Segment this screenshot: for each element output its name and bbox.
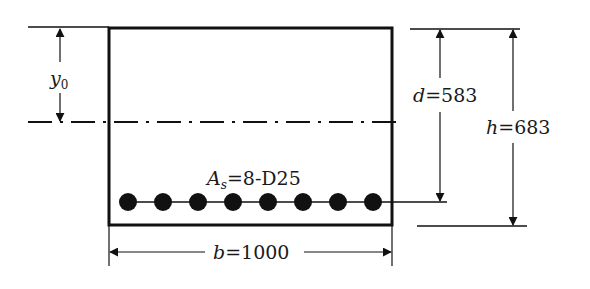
- rebar-4: [224, 193, 242, 211]
- rebar-8: [364, 193, 382, 211]
- d-label: d=583: [413, 84, 477, 106]
- rebar-3: [189, 193, 207, 211]
- rebar-7: [329, 193, 347, 211]
- rebar-1: [119, 193, 137, 211]
- b-label: b=1000: [213, 241, 289, 263]
- as-label: As=8-D25: [205, 167, 301, 192]
- section-diagram: y0 d=583 h=683 As=8-D25 b=1000: [0, 0, 590, 289]
- rebar-6: [294, 193, 312, 211]
- h-label: h=683: [486, 116, 550, 138]
- rebar-5: [259, 193, 277, 211]
- y0-label: y0: [49, 67, 68, 92]
- rebar-2: [154, 193, 172, 211]
- beam-section-outline: [109, 28, 392, 225]
